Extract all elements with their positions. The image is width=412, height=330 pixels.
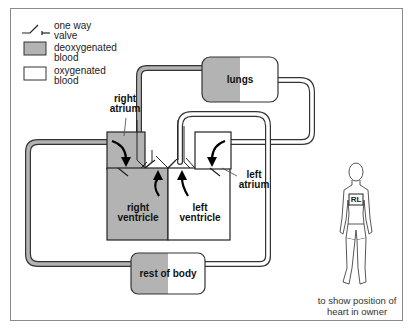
legend-deoxygenated-label: deoxygenated blood bbox=[54, 43, 117, 63]
one-way-valve-icon bbox=[22, 25, 50, 35]
right-ventricle-label: right ventricle bbox=[110, 203, 166, 223]
right-atrium-label: right atrium bbox=[100, 94, 150, 114]
left-ventricle-label: left ventricle bbox=[172, 203, 228, 223]
legend-valve-label: one way valve bbox=[54, 21, 91, 41]
oxygenated-swatch bbox=[24, 67, 46, 80]
legend-oxygenated-label: oxygenated blood bbox=[54, 66, 106, 86]
left-atrium-label: left atrium bbox=[232, 170, 276, 190]
person-figure bbox=[340, 163, 372, 284]
lungs-label: lungs bbox=[202, 75, 278, 85]
figure-caption: to show position of heart in owner bbox=[310, 295, 404, 317]
deoxygenated-swatch bbox=[24, 42, 46, 55]
heart-position-marker: RL bbox=[349, 195, 363, 204]
legend-icons bbox=[22, 25, 50, 80]
rest-of-body-label: rest of body bbox=[131, 269, 205, 279]
